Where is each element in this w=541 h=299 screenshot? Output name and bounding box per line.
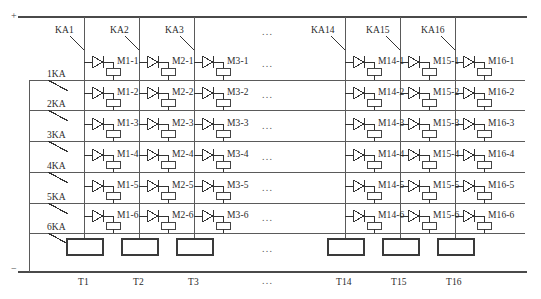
transformer-label-t16: T16: [446, 278, 462, 288]
module-label: M15-5: [433, 181, 459, 191]
module-label: M1-1: [117, 57, 139, 67]
ellipsis-marker: ...: [262, 183, 273, 193]
column-switch-label-ka1: KA1: [55, 26, 74, 36]
module-cell: [194, 210, 230, 233]
module-label: M15-2: [433, 88, 459, 98]
module-label: M15-1: [433, 57, 459, 67]
module-label: M16-2: [488, 88, 514, 98]
module-cell: [139, 210, 175, 233]
module-cell: [139, 180, 175, 203]
column-switch-contacts[interactable]: [70, 36, 455, 50]
column-switch-label-ka16: KA16: [421, 26, 445, 36]
module-label: M1-3: [117, 119, 139, 129]
row-switch-label-3ka: 3KA: [47, 131, 66, 141]
ellipsis-marker: ...: [262, 27, 273, 37]
column-switch-label-ka15: KA15: [366, 26, 390, 36]
negative-terminal-label: −: [11, 264, 17, 274]
module-label: M15-3: [433, 119, 459, 129]
column-switch-label-ka2: KA2: [110, 26, 129, 36]
row-switch-label-5ka: 5KA: [47, 193, 66, 203]
module-label: M2-6: [172, 211, 194, 221]
module-cell: [194, 149, 230, 172]
row-switch-label-2ka: 2KA: [47, 100, 66, 110]
row-switch-label-4ka: 4KA: [47, 162, 66, 172]
module-cell: [139, 149, 175, 172]
module-cell: [194, 180, 230, 203]
module-cell: [455, 118, 491, 141]
module-cell: [84, 87, 120, 110]
wiring-layer: [0, 0, 541, 299]
module-cell: [345, 87, 381, 110]
module-label: M1-4: [117, 150, 139, 160]
module-cell: [455, 56, 491, 80]
module-cell: [345, 118, 381, 141]
module-cell: [84, 56, 120, 80]
module-label: M2-3: [172, 119, 194, 129]
transformer-label-t14: T14: [336, 278, 352, 288]
module-cell: [84, 210, 120, 233]
row-switch-label-6ka: 6KA: [47, 223, 66, 233]
module-cell: [84, 118, 120, 141]
module-label: M14-6: [378, 211, 404, 221]
module-cell: [139, 118, 175, 141]
ellipsis-marker: ...: [262, 59, 273, 69]
module-cell: [455, 180, 491, 203]
ellipsis-marker: ...: [262, 244, 273, 254]
module-cell: [194, 56, 230, 80]
module-cell: [345, 180, 381, 203]
module-cell: [194, 118, 230, 141]
module-label: M1-2: [117, 88, 139, 98]
transformer-label-t2: T2: [133, 278, 144, 288]
module-cell: [455, 87, 491, 110]
module-label: M14-1: [378, 57, 404, 67]
module-cell: [139, 87, 175, 110]
transformer-label-t15: T15: [391, 278, 407, 288]
module-cell: [400, 118, 436, 141]
module-cell: [400, 180, 436, 203]
ellipsis-marker: ...: [262, 213, 273, 223]
module-label: M2-1: [172, 57, 194, 67]
column-switch-label-ka3: KA3: [165, 26, 184, 36]
ellipsis-marker: ...: [262, 276, 273, 286]
schematic-canvas: + − KA1 KA2 KA3 KA14 KA15 KA16 1KA 2KA 3…: [0, 0, 541, 299]
column-switch-label-ka14: KA14: [311, 26, 335, 36]
module-cell: [84, 149, 120, 172]
module-label: M16-5: [488, 181, 514, 191]
ellipsis-marker: ...: [262, 121, 273, 131]
ellipsis-marker: ...: [262, 90, 273, 100]
module-label: M1-5: [117, 181, 139, 191]
module-cell: [400, 210, 436, 233]
module-label: M16-6: [488, 211, 514, 221]
module-cells: [84, 56, 491, 233]
module-label: M14-3: [378, 119, 404, 129]
module-label: M3-4: [227, 150, 249, 160]
module-label: M14-4: [378, 150, 404, 160]
module-label: M14-5: [378, 181, 404, 191]
module-label: M3-1: [227, 57, 249, 67]
module-cell: [400, 87, 436, 110]
module-label: M2-2: [172, 88, 194, 98]
transformer-label-t1: T1: [78, 278, 89, 288]
module-cell: [345, 149, 381, 172]
module-label: M2-4: [172, 150, 194, 160]
ellipsis-marker: ...: [262, 152, 273, 162]
module-cell: [455, 149, 491, 172]
module-cell: [194, 87, 230, 110]
transformer-label-t3: T3: [188, 278, 199, 288]
module-cell: [455, 210, 491, 233]
module-label: M16-1: [488, 57, 514, 67]
module-label: M15-6: [433, 211, 459, 221]
module-label: M3-6: [227, 211, 249, 221]
module-label: M15-4: [433, 150, 459, 160]
module-cell: [345, 210, 381, 233]
module-label: M14-2: [378, 88, 404, 98]
module-cell: [84, 180, 120, 203]
module-label: M3-3: [227, 119, 249, 129]
module-cell: [400, 149, 436, 172]
row-switch-label-1ka: 1KA: [47, 70, 66, 80]
module-cell: [345, 56, 381, 80]
positive-terminal-label: +: [11, 11, 17, 21]
module-label: M3-5: [227, 181, 249, 191]
module-label: M3-2: [227, 88, 249, 98]
module-cell: [400, 56, 436, 80]
